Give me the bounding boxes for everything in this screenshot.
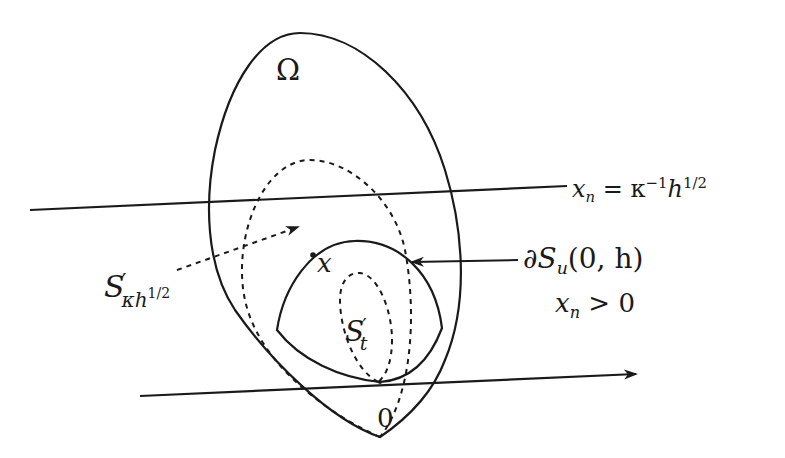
- level-line: [30, 186, 567, 210]
- level-eq: = κ: [595, 175, 645, 203]
- point-x-marker: [310, 252, 316, 258]
- level-h-exp: 1/2: [683, 174, 707, 192]
- section-S: S: [537, 242, 556, 275]
- pointer-arrow-su: [412, 260, 518, 262]
- origin-marker: [378, 380, 382, 384]
- s-t-sub: t: [360, 332, 368, 354]
- halfspace-rel: > 0: [580, 288, 635, 318]
- s-kappa-sub-exp: 1/2: [148, 285, 171, 301]
- tangent-axis: [140, 374, 636, 396]
- section-args: (0, h): [568, 242, 644, 275]
- s-kappa-sub: κh: [122, 288, 148, 312]
- level-line-label: xn = κ−1h1/2: [572, 176, 707, 205]
- halfspace-var-sub: n: [570, 303, 580, 322]
- halfspace-label: xn > 0: [555, 290, 635, 321]
- diagram-canvas: Ω xn = κ−1h1/2 ∂Su(0, h) xn > 0 S′κh1/2 …: [0, 0, 785, 458]
- level-var-sub: n: [586, 188, 596, 206]
- pointer-arrow-s-kappa: [177, 227, 298, 270]
- origin-label: 0: [377, 405, 394, 431]
- section-s-kappa: [242, 160, 411, 437]
- point-x-label: x: [317, 250, 332, 276]
- section-boundary-label: ∂Su(0, h): [523, 245, 643, 277]
- diagram-svg: [0, 0, 785, 458]
- s-t-label: S′t: [345, 318, 376, 346]
- section-S-sub: u: [557, 258, 568, 278]
- level-var: x: [572, 175, 586, 203]
- partial-symbol: ∂: [523, 242, 537, 275]
- level-kappa-exp: −1: [646, 174, 668, 192]
- halfspace-var: x: [555, 288, 570, 318]
- level-h: h: [667, 175, 682, 203]
- omega-label: Ω: [276, 56, 300, 85]
- s-kappa-label: S′κh1/2: [104, 272, 178, 302]
